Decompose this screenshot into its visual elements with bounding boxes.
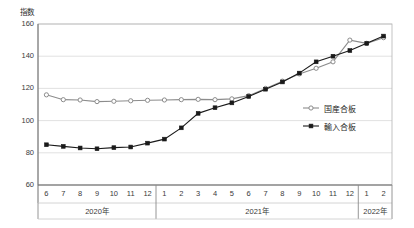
data-point bbox=[348, 38, 352, 42]
x-axis-tick: 5 bbox=[224, 189, 240, 198]
x-axis-tick: 10 bbox=[308, 189, 324, 198]
data-point bbox=[45, 143, 49, 147]
data-point bbox=[314, 66, 318, 70]
data-point bbox=[162, 98, 166, 102]
data-point bbox=[145, 98, 149, 102]
data-point bbox=[61, 98, 65, 102]
x-axis-tick: 3 bbox=[190, 189, 206, 198]
y-axis-tick: 120 bbox=[12, 83, 34, 92]
x-axis-tick: 9 bbox=[291, 189, 307, 198]
data-point bbox=[78, 146, 82, 150]
data-point bbox=[61, 144, 65, 148]
y-axis-tick: 160 bbox=[12, 19, 34, 28]
x-axis-tick: 8 bbox=[72, 189, 88, 198]
x-axis-tick: 9 bbox=[89, 189, 105, 198]
x-axis-tick: 7 bbox=[258, 189, 274, 198]
data-point bbox=[382, 34, 386, 38]
x-axis-tick: 6 bbox=[38, 189, 54, 198]
data-point bbox=[95, 147, 99, 151]
x-axis-year-label: 2022年 bbox=[353, 205, 397, 216]
x-axis-tick: 6 bbox=[241, 189, 257, 198]
data-point bbox=[247, 95, 251, 99]
data-point bbox=[196, 97, 200, 101]
x-axis-tick: 2 bbox=[376, 189, 392, 198]
data-point bbox=[44, 93, 48, 97]
data-point bbox=[129, 145, 133, 149]
x-axis-year-label: 2020年 bbox=[75, 205, 119, 216]
x-axis-tick: 10 bbox=[106, 189, 122, 198]
x-axis-year-label: 2021年 bbox=[235, 205, 279, 216]
data-point bbox=[230, 97, 234, 101]
data-point bbox=[196, 111, 200, 115]
series-line-1 bbox=[46, 38, 383, 102]
data-point bbox=[112, 146, 116, 150]
y-axis-tick: 140 bbox=[12, 51, 34, 60]
x-axis-tick: 8 bbox=[274, 189, 290, 198]
data-point bbox=[281, 80, 285, 84]
x-axis-tick: 2 bbox=[173, 189, 189, 198]
data-point bbox=[179, 98, 183, 102]
legend-marker-2 bbox=[309, 124, 313, 128]
y-axis-tick: 60 bbox=[12, 180, 34, 189]
x-axis-tick: 11 bbox=[123, 189, 139, 198]
data-point bbox=[230, 101, 234, 105]
x-axis-tick: 7 bbox=[55, 189, 71, 198]
x-axis-tick: 11 bbox=[325, 189, 341, 198]
x-axis-tick: 12 bbox=[140, 189, 156, 198]
data-point bbox=[112, 99, 116, 103]
data-point bbox=[146, 141, 150, 145]
legend-label-1: 国産合板 bbox=[324, 103, 356, 114]
data-point bbox=[78, 98, 82, 102]
data-point bbox=[297, 71, 301, 75]
y-axis-tick: 80 bbox=[12, 148, 34, 157]
data-point bbox=[213, 106, 217, 110]
x-axis-tick: 1 bbox=[156, 189, 172, 198]
legend-marker-1 bbox=[309, 106, 313, 110]
data-point bbox=[314, 60, 318, 64]
data-point bbox=[95, 100, 99, 104]
plywood-price-index-chart: 指数 6080100120140160 67891011121234567891… bbox=[0, 0, 414, 228]
x-axis-tick: 1 bbox=[359, 189, 375, 198]
data-point bbox=[129, 99, 133, 103]
x-axis-tick: 12 bbox=[342, 189, 358, 198]
data-point bbox=[213, 98, 217, 102]
y-axis-tick: 100 bbox=[12, 116, 34, 125]
data-point bbox=[163, 137, 167, 141]
data-point bbox=[365, 41, 369, 45]
data-point bbox=[331, 54, 335, 58]
legend-label-2: 輸入合板 bbox=[324, 121, 356, 132]
data-point bbox=[331, 60, 335, 64]
data-point bbox=[179, 126, 183, 130]
data-point bbox=[264, 87, 268, 91]
x-axis-tick: 4 bbox=[207, 189, 223, 198]
data-point bbox=[348, 49, 352, 53]
